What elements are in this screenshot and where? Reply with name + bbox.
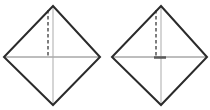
origami-diagram-svg xyxy=(0,0,210,110)
diamond-outline xyxy=(4,6,100,105)
origami-diagram-figure xyxy=(0,0,210,110)
diamond-outline xyxy=(112,6,207,105)
origami-step-left xyxy=(4,6,100,105)
origami-step-right xyxy=(112,6,207,105)
